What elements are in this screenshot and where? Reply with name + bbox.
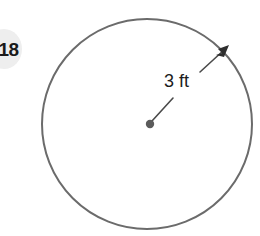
radius-leader-line-lower (152, 98, 173, 121)
geometry-figure: 3 ft 18 (0, 0, 260, 236)
problem-number-label: 18 (0, 40, 19, 59)
radius-measurement-label: 3 ft (164, 72, 189, 90)
radius-leader-line-upper (200, 50, 224, 72)
circle-center-dot (146, 120, 154, 128)
circle-diagram-canvas (0, 0, 260, 236)
